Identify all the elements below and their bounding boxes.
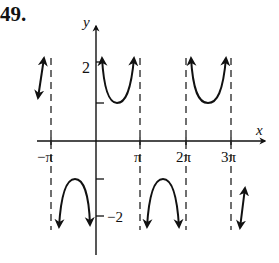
branch-up-0-pi [102, 58, 134, 103]
branch-partial-left [38, 58, 44, 98]
x-tick-label-3pi: 3π [221, 149, 237, 165]
curve-branches [38, 58, 245, 228]
asymptotes [51, 58, 231, 230]
branch-partial-right [240, 188, 245, 228]
y-tick-label-neg-2: −2 [107, 209, 123, 225]
x-tick-label-pi: π [134, 149, 142, 165]
branch-up-2pi-3pi [191, 58, 226, 103]
y-ticks [96, 62, 104, 216]
x-tick-label-2pi: 2π [176, 149, 192, 165]
y-tick-label-2: 2 [82, 59, 90, 76]
x-tick-label-neg-pi: −π [37, 149, 53, 165]
branch-down-negpi-0 [59, 179, 90, 227]
csc-graph: x y −π π 2π 3π 2 −2 [0, 0, 279, 263]
branch-down-pi-2pi [147, 179, 179, 227]
y-axis-label: y [81, 14, 90, 30]
x-axis-label: x [255, 122, 263, 138]
